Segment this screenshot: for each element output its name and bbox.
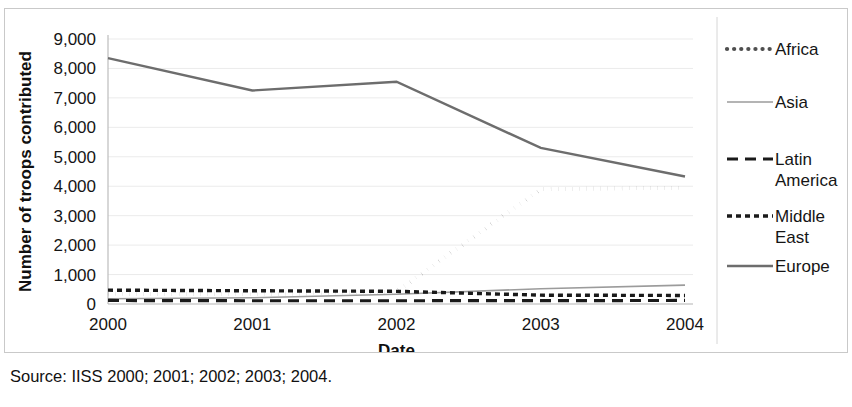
series-line-europe bbox=[108, 58, 685, 176]
y-tick-label: 1,000 bbox=[53, 266, 96, 285]
x-tick-label: 2004 bbox=[666, 315, 704, 334]
legend-label-asia: Asia bbox=[775, 93, 809, 112]
chart-frame: 01,0002,0003,0004,0005,0006,0007,0008,00… bbox=[4, 8, 848, 353]
y-tick-label: 9,000 bbox=[53, 30, 96, 49]
y-tick-label: 7,000 bbox=[53, 89, 96, 108]
x-tick-label: 2002 bbox=[378, 315, 416, 334]
y-tick-label: 0 bbox=[87, 295, 96, 314]
legend-label-latin-america: LatinAmerica bbox=[775, 150, 838, 190]
y-tick-label: 4,000 bbox=[53, 177, 96, 196]
series-line-africa bbox=[108, 188, 685, 295]
x-axis-title: Date bbox=[378, 341, 415, 352]
legend-label-africa: Africa bbox=[775, 40, 819, 59]
axis-lines-group bbox=[108, 35, 693, 304]
data-series-group bbox=[108, 58, 685, 301]
line-chart: 01,0002,0003,0004,0005,0006,0007,0008,00… bbox=[5, 9, 847, 352]
y-axis-tick-labels: 01,0002,0003,0004,0005,0006,0007,0008,00… bbox=[53, 30, 96, 314]
chart-legend: AfricaAsiaLatinAmericaMiddleEastEurope bbox=[717, 17, 838, 344]
y-tick-label: 8,000 bbox=[53, 59, 96, 78]
y-tick-label: 6,000 bbox=[53, 118, 96, 137]
figure-container: 01,0002,0003,0004,0005,0006,0007,0008,00… bbox=[0, 0, 852, 407]
x-tick-label: 2001 bbox=[233, 315, 271, 334]
y-axis-title: Number of troops contributed bbox=[16, 51, 35, 292]
source-note: Source: IISS 2000; 2001; 2002; 2003; 200… bbox=[10, 367, 332, 386]
legend-label-middle-east: MiddleEast bbox=[775, 207, 825, 247]
y-tick-label: 5,000 bbox=[53, 148, 96, 167]
legend-label-europe: Europe bbox=[775, 257, 830, 276]
y-tick-label: 2,000 bbox=[53, 236, 96, 255]
y-tick-label: 3,000 bbox=[53, 207, 96, 226]
x-tick-label: 2000 bbox=[89, 315, 127, 334]
x-tick-label: 2003 bbox=[522, 315, 560, 334]
x-axis-tick-labels: 20002001200220032004 bbox=[89, 315, 704, 334]
